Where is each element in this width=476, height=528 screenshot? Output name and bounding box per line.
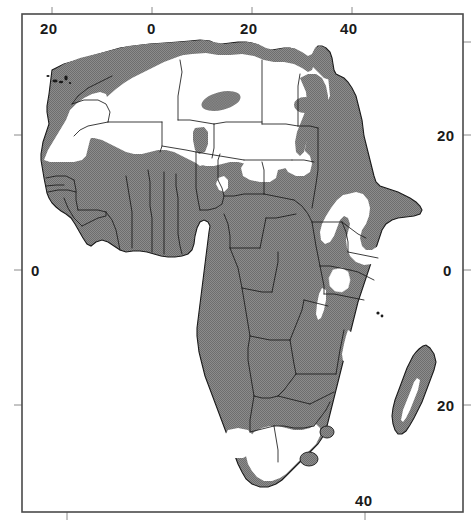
lake-victoria-unshaded [329, 268, 350, 292]
island-dot [376, 311, 379, 314]
lesotho-patch-shaded [300, 452, 318, 466]
axis-label-top-20e: 20 [240, 20, 258, 37]
axis-label-right-20s: 20 [437, 397, 455, 414]
axis-label-top-20w: 20 [40, 20, 58, 37]
map-figure: 20 0 20 40 0 20 0 20 40 [0, 0, 476, 528]
africa-map-svg [0, 0, 476, 528]
axis-label-bottom-40s: 40 [355, 492, 373, 509]
axis-label-left-0: 0 [31, 262, 40, 279]
axis-label-right-20n: 20 [437, 127, 455, 144]
kalahari-west-white-lobe [224, 428, 254, 458]
axis-label-top-0: 0 [147, 20, 156, 37]
island-dot [381, 315, 384, 318]
axis-label-top-40e: 40 [340, 20, 358, 37]
swaziland-patch-shaded [320, 426, 334, 438]
map-land-layer [41, 40, 436, 487]
axis-label-right-0: 0 [443, 262, 452, 279]
air-massif-patch-shaded [193, 127, 208, 154]
